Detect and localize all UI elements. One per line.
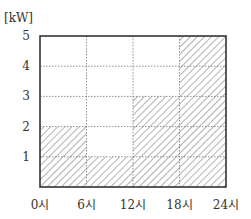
x-tick-label: 12시	[120, 198, 146, 212]
y-tick-label: 3	[22, 89, 30, 103]
bar-6시-12시	[87, 157, 134, 187]
y-tick-label: 4	[22, 59, 30, 73]
x-tick-label: 6시	[77, 198, 96, 212]
x-tick-label: 24시	[213, 198, 239, 212]
bar-12시-18시	[133, 96, 180, 187]
x-tick-label: 18시	[166, 198, 192, 212]
bar-18시-24시	[180, 36, 227, 187]
y-axis-unit-label: [kW]	[4, 11, 33, 25]
y-tick-label: 2	[22, 120, 30, 134]
y-tick-label: 5	[22, 29, 30, 43]
power-usage-chart: [kW] 12345 0시6시12시18시24시	[0, 0, 251, 219]
x-tick-label: 0시	[31, 198, 50, 212]
y-tick-label: 1	[22, 150, 30, 164]
